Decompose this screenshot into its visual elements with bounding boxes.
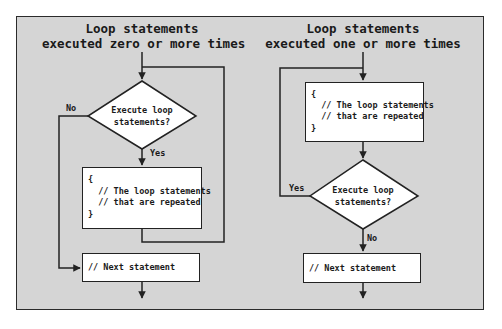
right-decision-line1: Execute loop [313,184,413,196]
left-decision-label: Execute loop statements? [92,104,192,128]
left-loop-line: { [88,174,93,185]
left-yes-label: Yes [150,148,165,158]
right-loop-line: // that are repeated [311,111,424,122]
left-title-line2: executed zero or more times [42,36,242,51]
right-next-statement-text: // Next statement [309,263,396,274]
right-title-line2: executed one or more times [263,36,463,51]
left-flow-title: Loop statements executed zero or more ti… [42,21,242,51]
right-title-line1: Loop statements [263,21,463,36]
left-loop-line: } [88,209,93,220]
right-loop-box: { // The loop statements // that are rep… [305,82,424,142]
left-next-statement-box: // Next statement [82,253,200,282]
left-loop-box: { // The loop statements // that are rep… [82,167,202,229]
left-loop-line: // that are repeated [88,197,201,208]
right-decision-label: Execute loop statements? [313,184,413,208]
right-decision-line2: statements? [313,196,413,208]
right-loop-line: { [311,89,316,100]
left-no-label: No [66,103,76,113]
right-no-label: No [367,233,377,243]
left-decision-line2: statements? [92,116,192,128]
right-loop-line: // The loop statements [311,100,434,111]
left-decision-line1: Execute loop [92,104,192,116]
left-loop-line: // The loop statements [88,186,211,197]
right-next-statement-box: // Next statement [303,253,421,283]
right-flow-title: Loop statements executed one or more tim… [263,21,463,51]
right-yes-label: Yes [289,183,304,193]
left-title-line1: Loop statements [42,21,242,36]
right-loop-line: } [311,123,316,134]
left-next-statement-text: // Next statement [88,262,175,273]
